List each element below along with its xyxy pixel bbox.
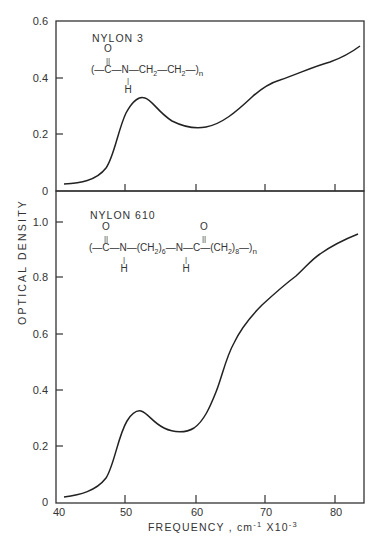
top-ytick-0: 0 [42,185,48,197]
bottom-ytick-1.0: 1.0 [33,216,48,228]
yaxis-label: OPTICAL DENSITY [16,199,28,325]
xtick-60: 60 [191,506,203,518]
nylon-610-curve [64,234,358,497]
bottom-ytick-0.6: 0.6 [33,328,48,340]
bottom-ytick-0.4: 0.4 [33,384,48,396]
svg-text:O: O [200,221,208,232]
top-ytick-0.4: 0.4 [33,72,48,84]
xaxis-label: FREQUENCY , cm-1 X10-3 [148,520,298,533]
xtick-70: 70 [260,506,272,518]
xtick-80: 80 [330,506,342,518]
chart-figure: 0.6 0.4 0.2 0 1.0 0.8 0.6 0.4 0.2 0 40 5… [0,0,379,545]
top-yaxis-ticks [56,78,63,134]
svg-text:(—C—N—CH2—CH2—)n: (—C—N—CH2—CH2—)n [91,64,203,78]
svg-text:H: H [182,263,189,274]
top-xaxis-ticks [125,184,335,191]
bottom-panel-title: NYLON 610 [90,209,156,221]
top-panel-title: NYLON 3 [92,32,144,44]
bottom-ytick-0: 0 [42,496,48,508]
svg-text:O: O [104,43,112,54]
xtick-40: 40 [53,506,65,518]
bottom-yaxis-ticks [56,222,63,446]
svg-text:O: O [102,221,110,232]
top-plot-frame [56,21,364,191]
svg-text:H: H [124,84,131,95]
bottom-plot-frame [56,191,364,503]
top-ytick-0.6: 0.6 [33,15,48,27]
svg-text:H: H [120,263,127,274]
nylon-610-formula: O || O || (—C—N—(CH2)6—N—C—(CH2)8—)n | H… [89,221,257,274]
svg-text:(—C—N—(CH2)6—N—C—(CH2)8—)n: (—C—N—(CH2)6—N—C—(CH2)8—)n [89,242,257,256]
top-ytick-0.2: 0.2 [33,128,48,140]
bottom-ytick-0.2: 0.2 [33,440,48,452]
xtick-50: 50 [120,506,132,518]
bottom-xaxis-ticks [125,495,335,503]
nylon-3-formula: O || (—C—N—CH2—CH2—)n | H [91,43,203,95]
bottom-ytick-0.8: 0.8 [33,271,48,283]
